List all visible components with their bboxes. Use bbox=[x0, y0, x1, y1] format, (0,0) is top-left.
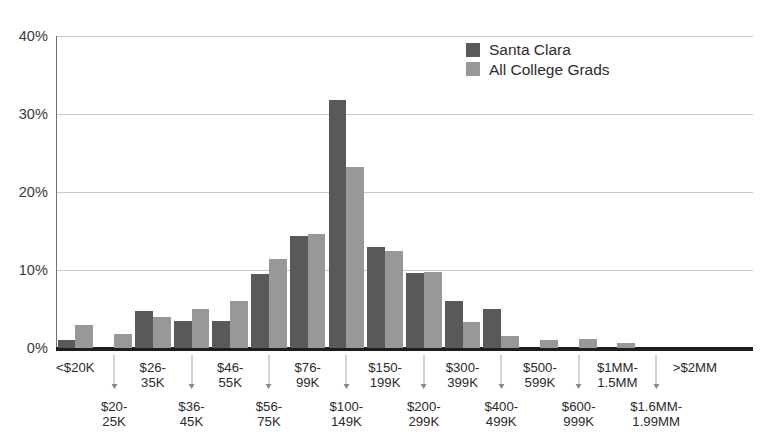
legend-item-all-college-grads: All College Grads bbox=[466, 62, 610, 78]
bar-santa-clara bbox=[212, 321, 230, 348]
x-axis-labels: <$20K$20- 25K$26- 35K$36- 45K$46- 55K$56… bbox=[56, 351, 753, 446]
bar-group bbox=[327, 36, 366, 348]
bar-group bbox=[676, 36, 715, 348]
bar-all-college-grads bbox=[617, 343, 635, 348]
bar-santa-clara bbox=[483, 309, 501, 348]
bar-santa-clara bbox=[251, 274, 269, 348]
arrow-down-icon bbox=[191, 355, 192, 388]
bar-santa-clara bbox=[290, 236, 308, 348]
bar-group bbox=[482, 36, 521, 348]
legend-swatch-icon bbox=[466, 62, 480, 76]
bar-group bbox=[95, 36, 134, 348]
bar-group bbox=[714, 36, 753, 348]
grouped-bar-chart: 40% 30% 20% 10% 0% Santa Clara All Colle… bbox=[0, 0, 767, 446]
arrow-down-icon bbox=[114, 355, 115, 388]
bar-group bbox=[404, 36, 443, 348]
bar-santa-clara bbox=[329, 100, 347, 348]
bar-group bbox=[366, 36, 405, 348]
bar-all-college-grads bbox=[269, 259, 287, 348]
legend-label: Santa Clara bbox=[489, 42, 571, 58]
bar-santa-clara bbox=[58, 340, 76, 348]
bar-group bbox=[637, 36, 676, 348]
y-tick-label: 20% bbox=[0, 184, 48, 200]
y-tick-label: 30% bbox=[0, 106, 48, 122]
bar-group bbox=[172, 36, 211, 348]
bar-group bbox=[211, 36, 250, 348]
bar-santa-clara bbox=[174, 321, 192, 348]
bar-group bbox=[443, 36, 482, 348]
bar-santa-clara bbox=[406, 273, 424, 348]
bar-santa-clara bbox=[445, 301, 463, 348]
bar-group bbox=[250, 36, 289, 348]
bar-all-college-grads bbox=[579, 339, 597, 348]
arrow-down-icon bbox=[346, 355, 347, 388]
bar-all-college-grads bbox=[346, 167, 364, 348]
bar-all-college-grads bbox=[424, 272, 442, 348]
bar-all-college-grads bbox=[114, 334, 132, 348]
arrow-down-icon bbox=[268, 355, 269, 388]
legend-swatch-icon bbox=[466, 43, 480, 57]
bar-group bbox=[521, 36, 560, 348]
arrow-down-icon bbox=[501, 355, 502, 388]
legend: Santa Clara All College Grads bbox=[466, 42, 610, 77]
y-tick-label: 40% bbox=[0, 28, 48, 44]
bar-all-college-grads bbox=[463, 322, 481, 348]
bar-all-college-grads bbox=[308, 234, 326, 348]
y-tick-label: 0% bbox=[0, 340, 48, 356]
arrow-down-icon bbox=[578, 355, 579, 388]
bar-santa-clara bbox=[367, 247, 385, 348]
bar-group bbox=[288, 36, 327, 348]
bar-group bbox=[598, 36, 637, 348]
bars-layer bbox=[56, 36, 753, 348]
bar-all-college-grads bbox=[192, 309, 210, 348]
bar-group bbox=[56, 36, 95, 348]
x-axis-label-cell bbox=[714, 351, 753, 446]
bar-group bbox=[133, 36, 172, 348]
legend-label: All College Grads bbox=[489, 62, 610, 78]
y-tick-label: 10% bbox=[0, 262, 48, 278]
arrow-down-icon bbox=[656, 355, 657, 388]
legend-item-santa-clara: Santa Clara bbox=[466, 42, 610, 58]
bar-all-college-grads bbox=[75, 325, 93, 348]
bar-all-college-grads bbox=[540, 340, 558, 348]
bar-santa-clara bbox=[135, 311, 153, 348]
bar-all-college-grads bbox=[230, 301, 248, 348]
bar-all-college-grads bbox=[501, 336, 519, 348]
bar-all-college-grads bbox=[153, 317, 171, 348]
bar-group bbox=[559, 36, 598, 348]
bar-all-college-grads bbox=[385, 251, 403, 349]
x-axis-label-cell: >$2MM bbox=[676, 351, 715, 446]
arrow-down-icon bbox=[423, 355, 424, 388]
